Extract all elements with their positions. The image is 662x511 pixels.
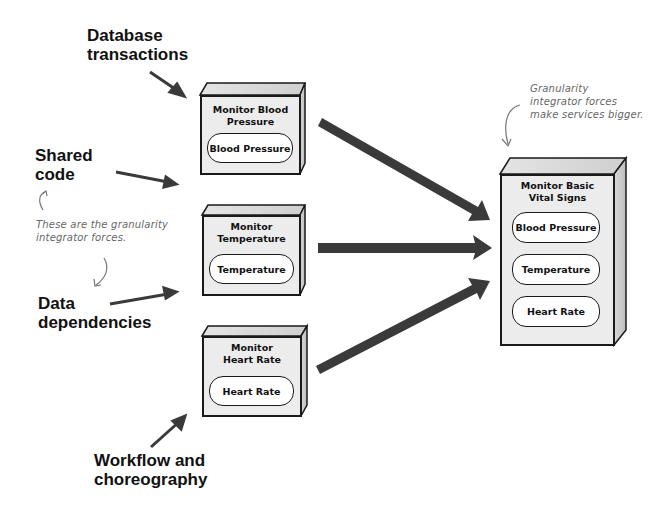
arrow-shared-code xyxy=(116,172,168,182)
component-temperature: Temperature xyxy=(512,254,600,285)
component-heart-rate: Heart Rate xyxy=(512,296,600,327)
curly-arrow-down-icon xyxy=(96,258,107,285)
merge-arrows xyxy=(316,118,492,374)
service-title: Monitor Heart Rate xyxy=(202,342,302,366)
force-arrows xyxy=(110,72,185,447)
service-monitor-blood-pressure: Monitor Blood Pressure Blood Pressure xyxy=(200,95,301,175)
service-title: Monitor Temperature xyxy=(202,221,301,245)
component-heart-rate: Heart Rate xyxy=(209,376,294,406)
service-monitor-heart-rate: Monitor Heart Rate Heart Rate xyxy=(202,336,302,417)
arrowhead-icon xyxy=(164,177,176,187)
merge-arrow-heart-rate xyxy=(316,278,490,374)
arrowhead-icon xyxy=(164,288,176,298)
service-title: Monitor Basic Vital Signs xyxy=(500,180,615,204)
force-label-shared-code: Shared code xyxy=(35,146,93,184)
note-left: These are the granularity integrator for… xyxy=(36,218,168,244)
service-title: Monitor Blood Pressure xyxy=(200,104,301,128)
component-blood-pressure: Blood Pressure xyxy=(207,133,293,163)
note-right: Granularity integrator forces make servi… xyxy=(530,82,644,121)
merge-arrow-blood-pressure xyxy=(318,118,490,221)
component-temperature: Temperature xyxy=(209,254,294,284)
service-monitor-basic-vital-signs: Monitor Basic Vital Signs Blood Pressure… xyxy=(500,174,615,346)
force-label-workflow-choreography: Workflow and choreography xyxy=(94,451,207,489)
force-label-data-dependencies: Data dependencies xyxy=(38,294,151,332)
force-label-database-transactions: Database transactions xyxy=(87,26,188,64)
curly-arrow-right-note-icon xyxy=(506,105,520,144)
service-monitor-temperature: Monitor Temperature Temperature xyxy=(202,215,301,296)
component-blood-pressure: Blood Pressure xyxy=(512,212,600,243)
merge-arrow-temperature xyxy=(318,235,492,260)
curly-arrow-up-icon xyxy=(40,192,45,210)
